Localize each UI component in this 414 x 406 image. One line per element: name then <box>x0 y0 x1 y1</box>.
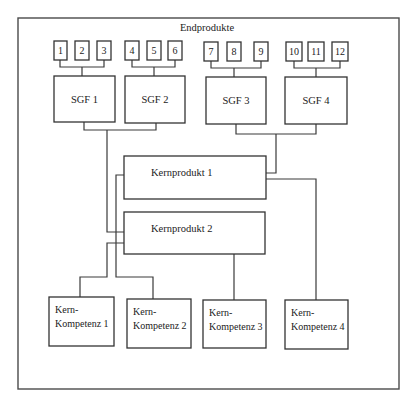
end-product-label: 12 <box>335 46 345 57</box>
connector-line <box>60 60 104 76</box>
end-product-9: 9 <box>254 42 268 61</box>
sgf-label: SGF 2 <box>141 94 168 105</box>
kernkompetenz-label-line2: Kompetenz 2 <box>133 320 187 331</box>
endprodukte-title: Endprodukte <box>180 22 235 33</box>
end-product-label: 8 <box>232 46 237 57</box>
core-products: Kernprodukt 1Kernprodukt 2 <box>124 156 266 254</box>
kernprodukt-2: Kernprodukt 2 <box>124 212 265 254</box>
end-product-5: 5 <box>147 41 161 60</box>
kernkompetenz-label-line2: Kompetenz 3 <box>209 321 263 332</box>
sgf-4: SGF 4 <box>285 77 347 124</box>
end-product-label: 5 <box>152 45 157 56</box>
end-product-12: 12 <box>332 42 348 61</box>
kernprodukt-label: Kernprodukt 2 <box>151 223 213 234</box>
kernkompetenz-label-line1: Kern- <box>291 307 314 318</box>
end-product-1: 1 <box>54 41 67 60</box>
kernkompetenz-4: Kern-Kompetenz 4 <box>285 300 348 349</box>
end-product-2: 2 <box>75 41 89 60</box>
sgf-2: SGF 2 <box>125 76 185 123</box>
end-product-3: 3 <box>97 41 111 60</box>
kernkompetenz-label-line1: Kern- <box>55 304 78 315</box>
end-product-label: 2 <box>80 45 85 56</box>
end-product-label: 6 <box>173 45 178 56</box>
core-competency-diagram: Endprodukte 123456789101112 SGF 1SGF 2SG… <box>0 0 414 406</box>
connector-line <box>266 179 316 300</box>
end-product-8: 8 <box>227 42 241 61</box>
end-product-label: 11 <box>311 46 321 57</box>
kernkompetenz-label-line1: Kern- <box>209 307 232 318</box>
kernprodukt-label: Kernprodukt 1 <box>151 167 213 178</box>
end-product-4: 4 <box>125 41 139 60</box>
end-product-7: 7 <box>204 42 218 61</box>
kernprodukt-1: Kernprodukt 1 <box>124 156 266 199</box>
end-product-label: 10 <box>289 46 299 57</box>
sgf-3: SGF 3 <box>206 77 266 124</box>
strategic-business-fields: SGF 1SGF 2SGF 3SGF 4 <box>54 76 347 124</box>
sgf-label: SGF 3 <box>222 95 249 106</box>
sgf-1: SGF 1 <box>54 76 115 122</box>
sgf-label: SGF 1 <box>71 94 98 105</box>
end-product-10: 10 <box>286 42 302 61</box>
end-products-row: 123456789101112 <box>54 41 348 61</box>
connector-line <box>211 61 261 77</box>
end-product-label: 1 <box>58 45 63 56</box>
kernkompetenz-label-line1: Kern- <box>133 306 156 317</box>
kernkompetenz-label-line2: Kompetenz 1 <box>55 318 109 329</box>
connector-line <box>132 60 175 76</box>
kernkompetenz-2: Kern-Kompetenz 2 <box>127 299 191 348</box>
end-product-label: 9 <box>259 46 264 57</box>
kernkompetenz-3: Kern-Kompetenz 3 <box>203 300 266 348</box>
end-product-label: 3 <box>102 45 107 56</box>
end-product-label: 4 <box>130 45 135 56</box>
end-product-11: 11 <box>308 42 324 61</box>
end-product-label: 7 <box>209 46 214 57</box>
connector-line <box>80 243 124 297</box>
kernkompetenz-label-line2: Kompetenz 4 <box>291 321 345 332</box>
connector-line <box>294 61 340 77</box>
core-competencies: Kern-Kompetenz 1Kern-Kompetenz 2Kern-Kom… <box>49 297 348 349</box>
sgf-label: SGF 4 <box>302 95 330 106</box>
kernkompetenz-1: Kern-Kompetenz 1 <box>49 297 114 346</box>
end-product-6: 6 <box>168 41 182 60</box>
